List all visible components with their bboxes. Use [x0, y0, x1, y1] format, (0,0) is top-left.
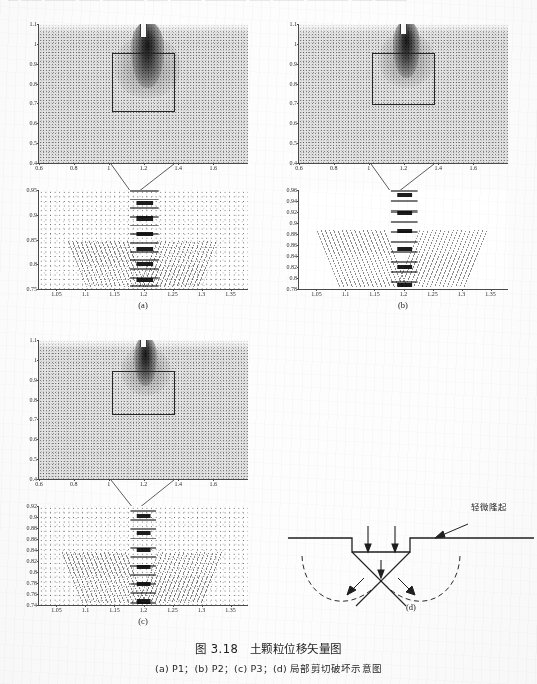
y-tick-label: 0.7: [30, 100, 38, 106]
cut-off-header-text: — —— ——— —— ———— —— ——— ———— —— ——— ————…: [8, 0, 529, 11]
y-tick-mark: [297, 223, 299, 224]
heave-callout-arrow: [435, 524, 468, 538]
panel-a-detail-plot: 0.750.80.850.90.95 1.051.11.151.21.251.3…: [38, 190, 248, 290]
x-tick-mark: [114, 289, 115, 291]
heave-annotation-label: 轻微隆起: [471, 500, 507, 512]
vector-stream-fringe: [131, 506, 157, 605]
y-tick-label: 0.7: [30, 416, 38, 422]
x-tick-label: 1.1: [82, 291, 90, 297]
vector-stream-fringe: [391, 190, 418, 289]
panel-b-overview-field: [299, 24, 508, 163]
x-tick-mark: [345, 289, 346, 291]
x-tick-mark: [231, 289, 232, 291]
panel-b-leader-lines: [298, 150, 510, 194]
y-tick-label: 0.9: [30, 212, 38, 218]
y-tick-label: 0.92: [287, 209, 298, 215]
y-tick-label: 0.84: [287, 253, 298, 259]
y-tick-label: 0.8: [30, 397, 38, 403]
y-tick-mark: [297, 256, 299, 257]
x-tick-mark: [144, 605, 145, 607]
x-tick-mark: [56, 289, 57, 291]
x-tick-label: 1.2: [140, 607, 148, 613]
panel-a-overview-field: [39, 24, 248, 163]
x-tick-mark: [56, 605, 57, 607]
x-tick-label: 1.15: [109, 607, 120, 613]
panel-c-detail-field: [39, 506, 248, 605]
x-tick-mark: [173, 289, 174, 291]
panel-b-detail-plot: 0.780.80.820.840.860.880.90.920.940.96 1…: [298, 190, 508, 290]
y-tick-label: 0.78: [27, 580, 38, 586]
x-tick-label: 1.35: [485, 291, 496, 297]
y-tick-label: 0.8: [290, 81, 298, 87]
x-tick-label: 1.25: [167, 291, 178, 297]
y-tick-mark: [297, 267, 299, 268]
y-tick-mark: [297, 212, 299, 213]
y-tick-mark: [37, 517, 39, 518]
y-tick-mark: [37, 380, 39, 381]
y-tick-mark: [297, 84, 299, 85]
y-tick-mark: [37, 360, 39, 361]
panel-a-label: (a): [38, 300, 248, 310]
y-tick-label: 0.88: [27, 525, 38, 531]
y-tick-label: 0.82: [27, 558, 38, 564]
x-tick-mark: [316, 289, 317, 291]
y-tick-label: 1.1: [30, 21, 38, 27]
y-tick-mark: [37, 439, 39, 440]
x-tick-label: 1.15: [369, 291, 380, 297]
y-tick-mark: [37, 419, 39, 420]
penetrator-shaft: [140, 24, 147, 37]
y-tick-label: 0.78: [287, 286, 298, 292]
y-tick-label: 0.86: [287, 242, 298, 248]
penetrator-shaft: [400, 24, 407, 34]
local-shear-failure-diagram: [288, 478, 534, 618]
y-tick-label: 0.6: [290, 120, 298, 126]
y-tick-mark: [37, 400, 39, 401]
y-tick-label: 0.8: [30, 261, 38, 267]
y-tick-mark: [37, 594, 39, 595]
y-tick-mark: [37, 506, 39, 507]
x-tick-label: 1.3: [198, 607, 206, 613]
penetrator-shaft: [140, 340, 147, 347]
x-tick-label: 1.35: [225, 607, 236, 613]
y-tick-mark: [37, 572, 39, 573]
y-tick-mark: [297, 234, 299, 235]
panel-b-label: (b): [298, 300, 508, 310]
panel-a-zoom-region: [112, 53, 175, 111]
x-tick-mark: [202, 605, 203, 607]
y-tick-mark: [37, 539, 39, 540]
x-tick-label: 1.05: [51, 607, 62, 613]
y-tick-mark: [37, 550, 39, 551]
panel-b-overview-plot: 0.40.50.60.70.80.911.1 0.60.811.21.41.6: [298, 24, 508, 164]
y-tick-label: 0.86: [27, 536, 38, 542]
y-tick-mark: [37, 215, 39, 216]
panel-b-zoom-region: [372, 53, 435, 104]
y-tick-label: 0.5: [290, 140, 298, 146]
y-tick-mark: [297, 289, 299, 290]
y-tick-label: 0.9: [290, 220, 298, 226]
y-tick-label: 0.95: [27, 187, 38, 193]
y-tick-label: 0.8: [30, 81, 38, 87]
y-tick-mark: [37, 64, 39, 65]
y-tick-mark: [37, 44, 39, 45]
wedge-line-1: [352, 552, 406, 606]
y-tick-mark: [297, 123, 299, 124]
y-tick-mark: [297, 201, 299, 202]
y-tick-mark: [297, 64, 299, 65]
vector-stream-fringe: [130, 190, 159, 289]
x-tick-label: 1.2: [400, 291, 408, 297]
failure-envelope-left: [302, 556, 378, 601]
panel-c-overview-field: [39, 340, 248, 479]
y-tick-mark: [37, 459, 39, 460]
y-tick-mark: [297, 44, 299, 45]
y-tick-label: 0.9: [30, 377, 38, 383]
panel-c-leader-lines: [38, 466, 250, 510]
panel-c-detail-plot: 0.740.760.780.80.820.840.860.880.90.92 1…: [38, 506, 248, 606]
x-tick-mark: [374, 289, 375, 291]
y-tick-label: 1.1: [290, 21, 298, 27]
y-tick-label: 0.8: [30, 569, 38, 575]
x-tick-label: 1.15: [109, 291, 120, 297]
y-tick-mark: [37, 289, 39, 290]
figure-caption-main: 图 3.18 土颗粒位移矢量图: [0, 640, 537, 656]
x-tick-label: 1.1: [82, 607, 90, 613]
x-tick-mark: [173, 605, 174, 607]
